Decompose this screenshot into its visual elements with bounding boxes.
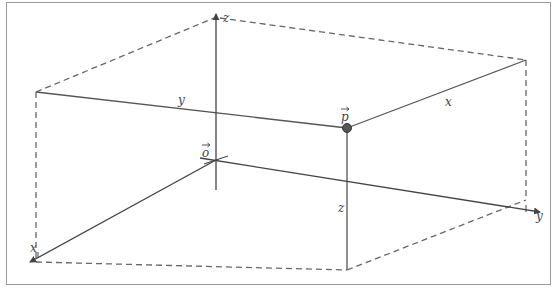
- dashed-top-back-edge: [220, 18, 526, 60]
- origin-label: o: [202, 143, 210, 160]
- x-edge-line: [347, 60, 526, 128]
- y-edge-line: [36, 92, 347, 128]
- z-axis-label: z: [222, 11, 230, 25]
- x-edge-label: x: [445, 95, 452, 109]
- y-axis-label: y: [535, 209, 543, 223]
- solid-box-edges: [36, 60, 526, 270]
- coordinate-diagram: z x y y x z o p: [0, 0, 560, 290]
- p-label: p: [341, 107, 349, 124]
- svg-text:o: o: [202, 146, 209, 160]
- dashed-box-edges: [36, 18, 526, 270]
- y-axis: [200, 158, 540, 212]
- dashed-bottom-front-edge: [36, 262, 347, 270]
- x-axis-label: x: [30, 241, 37, 255]
- y-edge-label: y: [177, 93, 185, 107]
- svg-text:p: p: [341, 110, 349, 124]
- x-axis: [30, 160, 216, 262]
- z-edge-label: z: [337, 201, 345, 215]
- dashed-top-left-edge: [36, 18, 214, 92]
- dashed-bottom-right-edge: [347, 200, 526, 270]
- point-p: [343, 124, 352, 133]
- axis-end-ticks: [38, 205, 526, 258]
